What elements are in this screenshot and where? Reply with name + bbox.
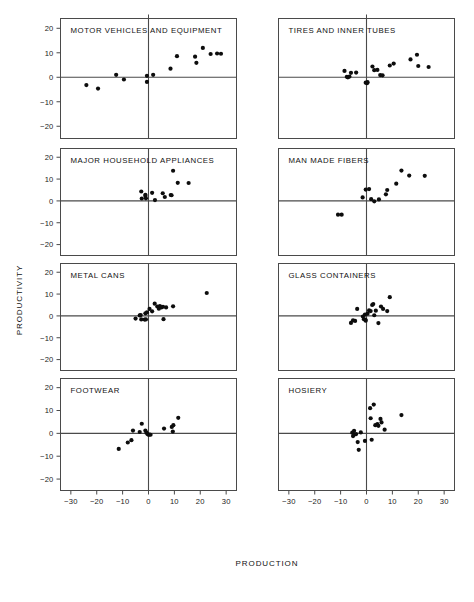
data-point	[126, 440, 130, 444]
x-tick-label: −20	[308, 497, 321, 506]
y-tick-label: 20	[45, 268, 54, 277]
data-point	[365, 80, 369, 84]
data-point	[354, 432, 358, 436]
data-point	[385, 188, 389, 192]
data-point	[122, 77, 126, 81]
y-tick-label: 20	[45, 24, 54, 33]
x-tick-label: 30	[222, 497, 231, 506]
x-tick-label: 20	[414, 497, 423, 506]
y-tick-label: 10	[45, 49, 54, 58]
x-tick-label: −30	[64, 497, 77, 506]
data-point	[169, 193, 173, 197]
data-point	[129, 438, 133, 442]
panel-title: FOOTWEAR	[71, 386, 120, 395]
data-point	[376, 424, 380, 428]
data-point	[144, 196, 148, 200]
data-point	[96, 86, 100, 90]
data-point	[372, 313, 376, 317]
data-point	[131, 429, 135, 433]
data-point	[171, 169, 175, 173]
x-axis-title: PRODUCTION	[236, 559, 299, 568]
panel-8: −30−20−100102030HOSIERY	[279, 379, 455, 506]
data-point	[163, 195, 167, 199]
data-point	[372, 199, 376, 203]
y-tick-label: 0	[49, 197, 53, 206]
data-point	[379, 420, 383, 424]
panel-1: 20100−10−20MOTOR VEHICLES AND EQUIPMENT	[40, 15, 236, 139]
y-tick-label: −10	[40, 98, 53, 107]
data-point	[139, 313, 143, 317]
data-point	[140, 422, 144, 426]
data-point	[150, 191, 154, 195]
y-tick-label: 10	[45, 175, 54, 184]
data-point	[193, 55, 197, 59]
data-point	[357, 448, 361, 452]
data-point	[145, 310, 149, 314]
data-point	[383, 428, 387, 432]
data-point	[171, 429, 175, 433]
data-point	[416, 64, 420, 68]
data-point	[187, 181, 191, 185]
data-point	[363, 439, 367, 443]
data-point	[353, 319, 357, 323]
data-point	[376, 321, 380, 325]
data-point	[399, 168, 403, 172]
y-tick-label: 20	[45, 383, 54, 392]
data-point	[427, 65, 431, 69]
data-point	[361, 195, 365, 199]
data-point	[388, 295, 392, 299]
y-tick-label: 20	[45, 153, 54, 162]
panel-title: MAN MADE FIBERS	[289, 156, 370, 165]
panel-title: METAL CANS	[71, 271, 125, 280]
panel-title: MAJOR HOUSEHOLD APPLIANCES	[71, 156, 215, 165]
data-point	[342, 69, 346, 73]
data-point	[171, 304, 175, 308]
data-point	[209, 52, 213, 56]
y-axis-title: PRODUCTIVITY	[15, 265, 24, 335]
data-point	[215, 51, 219, 55]
data-point	[384, 192, 388, 196]
data-point	[381, 307, 385, 311]
data-point	[354, 71, 358, 75]
data-point	[133, 316, 137, 320]
scatter-plot-matrix-figure: 20100−10−20MOTOR VEHICLES AND EQUIPMENTT…	[0, 0, 474, 602]
x-tick-label: −10	[334, 497, 347, 506]
data-point	[369, 416, 373, 420]
data-point	[347, 74, 351, 78]
panel-2: TIRES AND INNER TUBES	[279, 15, 455, 139]
data-point	[380, 73, 384, 77]
data-point	[423, 174, 427, 178]
data-point	[139, 189, 143, 193]
x-tick-label: 10	[388, 497, 397, 506]
data-point	[150, 309, 154, 313]
data-point	[161, 317, 165, 321]
data-point	[399, 413, 403, 417]
y-tick-label: 10	[45, 406, 54, 415]
data-point	[84, 83, 88, 87]
data-point	[388, 63, 392, 67]
panel-title: GLASS CONTAINERS	[289, 271, 377, 280]
panel-7: 20100−10−20−30−20−100102030FOOTWEAR	[40, 379, 236, 506]
x-tick-label: −10	[116, 497, 129, 506]
data-point	[175, 54, 179, 58]
y-tick-label: 0	[49, 73, 53, 82]
data-point	[164, 305, 168, 309]
x-tick-label: 0	[146, 497, 150, 506]
panel-title: MOTOR VEHICLES AND EQUIPMENT	[71, 26, 223, 35]
data-point	[375, 68, 379, 72]
panel-6: GLASS CONTAINERS	[279, 264, 455, 371]
data-point	[114, 73, 118, 77]
data-point	[205, 291, 209, 295]
data-point	[340, 213, 344, 217]
data-point	[349, 71, 353, 75]
data-point	[176, 181, 180, 185]
data-point	[370, 438, 374, 442]
y-tick-label: 10	[45, 290, 54, 299]
y-tick-label: −20	[40, 122, 53, 131]
data-point	[168, 67, 172, 71]
data-point	[161, 191, 165, 195]
y-tick-label: 0	[49, 312, 53, 321]
data-point	[138, 430, 142, 434]
data-point	[408, 57, 412, 61]
data-point	[201, 46, 205, 50]
